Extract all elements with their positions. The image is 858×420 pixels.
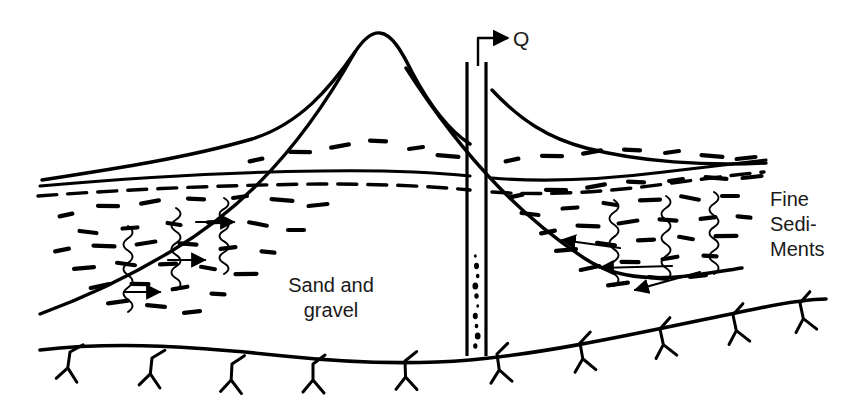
bedrock-tick [220,354,244,393]
sediment-dash [628,182,644,183]
ground-surface-line-right [492,90,766,164]
sediment-dash [701,217,716,219]
flow-arrow-left-direction [600,266,672,268]
aquifer-contact-line-right [406,68,742,278]
sediment-dash [137,242,156,245]
sediment-dash [201,267,215,269]
sediment-dash [578,226,599,227]
well-screen-perforation [473,313,478,319]
flow-arrows-right [562,240,700,290]
sediment-dash [624,150,640,151]
sediment-dash [681,196,699,199]
sediment-dash [331,144,349,147]
sediment-squiggle [710,192,719,274]
well-screen-perforation [476,274,480,279]
sediment-squiggle [220,198,229,274]
sediment-squiggle [662,196,671,280]
discharge-label: Q [513,27,529,50]
sediment-dash [738,216,751,217]
sediment-dash [679,237,693,239]
figure-root: Q Sand and gravel Fine Sedi- Ments [0,0,858,420]
well-screen-perforation [476,304,479,308]
groundwater-flow-arrows [124,222,700,292]
sediment-dash [438,155,459,157]
sediment-squiggles-right [610,192,719,286]
sediment-dash [743,176,762,178]
sediment-dash [587,184,605,187]
sediment-dash [510,195,523,198]
sediment-dash [141,200,159,203]
aquifer-label-line2: gravel [304,299,358,321]
well-screen-perforation [474,263,479,269]
well-screen-perforation [474,254,477,258]
sediment-dash [188,199,204,200]
sediment-dash [370,141,386,142]
fine-sediment-texture [55,141,761,313]
sediment-dash [250,159,263,162]
bedrock-tick [569,332,597,373]
well-screen-perforation [474,293,478,298]
sediment-dash [640,200,660,201]
stratigraphic-lines [38,33,766,314]
sediment-dash [563,207,578,208]
bedrock-tick-marks [56,292,818,394]
sediment-dash [604,203,617,205]
well-screen-perforation [473,343,477,348]
sediment-dashes-left [55,196,327,313]
bedrock-tick [139,348,165,388]
pumping-well [467,38,508,356]
sediment-dash [55,249,69,252]
well-screen [472,254,480,348]
sediment-dash [638,240,654,241]
sediment-dash [168,223,181,225]
sediment-dash [272,199,293,201]
sediment-dash [665,151,679,153]
sediment-dash [409,147,423,149]
sediment-dash [262,251,275,252]
hydrogeologic-cross-section-diagram: Q Sand and gravel Fine Sedi- Ments [0,0,858,420]
sediment-dash [309,204,328,206]
sediment-dash [619,221,638,224]
sediment-dash [184,311,200,313]
sediment-dash [74,267,94,269]
discharge-pipe [478,38,508,66]
sediment-dash [160,264,176,265]
sediment-dash [737,157,756,159]
well-screen-perforation [475,324,479,329]
flow-arrow-left-direction [635,272,700,290]
aquifer-label-line1: Sand and [288,274,374,296]
sediment-dash [147,305,165,307]
sediment-dash [506,159,519,162]
sediment-dash [108,301,128,304]
sediment-dash [212,294,225,295]
well-screen-perforation [475,332,481,339]
confining-label-line3: Ments [770,238,824,260]
sediment-dash [80,231,97,233]
sediment-dash [249,222,267,225]
sediment-dash [94,246,115,247]
confining-label-line2: Sedi- [770,213,817,235]
bedrock-tick [395,352,418,391]
bedrock-tick [648,318,677,360]
well-screen-perforation [472,282,478,289]
bedrock-tick [486,343,513,384]
sediment-dash [702,155,723,157]
confining-label-line1: Fine [770,188,809,210]
sediment-dash [60,214,73,217]
